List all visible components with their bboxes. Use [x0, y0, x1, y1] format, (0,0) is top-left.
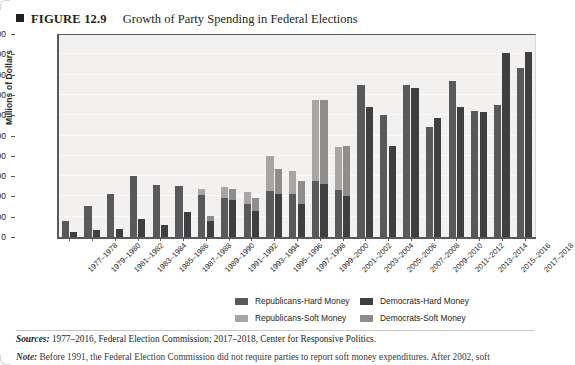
bar-segment-democrats-hard-money — [320, 184, 327, 237]
bar-segment-republicans-hard-money — [153, 185, 160, 237]
bar-segment-democrats-hard-money — [161, 225, 168, 237]
bar-segment-democrats-hard-money — [184, 212, 191, 237]
bar-segment-democrats-hard-money — [93, 230, 100, 237]
bar-segment-democrats-hard-money — [480, 112, 487, 237]
y-axis-tick-label: 1000 — [0, 29, 6, 39]
bar-democrats — [229, 189, 236, 237]
bar-republicans — [84, 206, 91, 237]
note-line: Note: Before 1991, the Federal Election … — [16, 352, 490, 362]
bar-group — [289, 34, 305, 237]
bar-group — [312, 34, 328, 237]
x-axis-tick-mark — [411, 237, 412, 241]
bar-segment-republicans-hard-money — [357, 85, 364, 237]
x-axis-tick-mark — [92, 237, 93, 241]
bar-republicans — [244, 192, 251, 237]
bar-democrats — [434, 118, 441, 237]
bar-segment-democrats-soft-money — [207, 216, 214, 221]
chart-container: Millions of Dollars 10009008007006005004… — [0, 30, 550, 270]
bar-group — [403, 34, 419, 237]
x-axis-tick-mark — [183, 237, 184, 241]
x-axis-tick-mark — [138, 237, 139, 241]
bar-segment-democrats-hard-money — [525, 52, 532, 237]
bar-group — [84, 34, 100, 237]
bar-democrats — [502, 53, 509, 237]
x-axis-tick-mark — [160, 237, 161, 241]
bar-democrats — [275, 169, 282, 237]
bar-republicans — [175, 186, 182, 237]
y-axis-tick-mark — [11, 196, 15, 197]
legend-item-label: Democrats-Hard Money — [380, 296, 469, 306]
x-axis-tick-mark — [115, 237, 116, 241]
bar-segment-democrats-hard-money — [457, 107, 464, 237]
bar-segment-democrats-hard-money — [343, 196, 350, 237]
bar-group — [380, 34, 396, 237]
square-bullet-icon — [16, 14, 24, 22]
y-axis-tick-mark — [11, 115, 15, 116]
bar-segment-democrats-hard-money — [275, 194, 282, 237]
y-axis-tick-label: 700 — [0, 90, 6, 100]
bar-group — [517, 34, 533, 237]
bar-segment-republicans-soft-money — [312, 100, 319, 181]
y-axis-tick-mark — [11, 237, 15, 238]
bar-segment-republicans-hard-money — [494, 105, 501, 237]
bar-republicans — [62, 221, 69, 237]
bar-group — [198, 34, 214, 237]
bar-republicans — [289, 171, 296, 237]
x-axis-tick-mark — [274, 237, 275, 241]
bar-republicans — [335, 147, 342, 237]
bar-segment-republicans-soft-money — [244, 192, 251, 203]
y-axis-tick-mark — [11, 95, 15, 96]
bar-republicans — [198, 189, 205, 237]
bar-group — [153, 34, 169, 237]
bar-segment-republicans-hard-money — [380, 115, 387, 237]
bar-segment-democrats-soft-money — [229, 189, 236, 200]
bar-democrats — [411, 88, 418, 237]
bar-segment-democrats-soft-money — [298, 181, 305, 203]
bar-segment-republicans-soft-money — [198, 189, 205, 195]
x-axis-tick-mark — [525, 237, 526, 241]
bar-republicans — [107, 194, 114, 237]
bar-segment-republicans-soft-money — [221, 187, 228, 198]
y-axis-tick-mark — [11, 156, 15, 157]
x-axis-tick-mark — [69, 237, 70, 241]
note-label: Note: — [16, 352, 37, 362]
bar-segment-republicans-hard-money — [335, 190, 342, 237]
bar-republicans — [153, 185, 160, 237]
page-title: Growth of Party Spending in Federal Elec… — [123, 12, 358, 27]
bar-segment-democrats-hard-money — [502, 53, 509, 237]
bar-segment-republicans-hard-money — [517, 68, 524, 238]
footer-divider — [16, 330, 534, 331]
y-axis-tick-label: 100 — [0, 212, 6, 222]
page-corner-bottom-left — [0, 355, 10, 365]
bar-segment-republicans-hard-money — [221, 198, 228, 237]
legend-item-label: Republicans-Soft Money — [255, 313, 346, 323]
bar-segment-republicans-hard-money — [175, 186, 182, 237]
bar-group — [107, 34, 123, 237]
bar-group — [335, 34, 351, 237]
bar-segment-republicans-soft-money — [335, 147, 342, 191]
legend-swatch-republicans-hard — [235, 298, 248, 305]
bar-group — [266, 34, 282, 237]
legend-swatch-democrats-soft — [360, 315, 373, 322]
bar-segment-democrats-soft-money — [275, 169, 282, 194]
y-axis-tick-label: 200 — [0, 191, 6, 201]
y-axis-tick-label: 0 — [1, 232, 6, 242]
legend-item-label: Democrats-Soft Money — [380, 313, 466, 323]
x-axis-tick-mark — [229, 237, 230, 241]
bar-segment-democrats-hard-money — [207, 221, 214, 237]
chart-legend: Republicans-Hard MoneyDemocrats-Hard Mon… — [0, 296, 550, 323]
x-axis-tick-mark — [434, 237, 435, 241]
bar-republicans — [494, 105, 501, 237]
bar-segment-republicans-hard-money — [107, 194, 114, 237]
bar-segment-republicans-soft-money — [289, 171, 296, 194]
page-corner-top-left — [0, 0, 10, 10]
legend-item-label: Republicans-Hard Money — [255, 296, 350, 306]
y-axis-tick-label: 800 — [0, 70, 6, 80]
bar-segment-republicans-hard-money — [312, 181, 319, 237]
bar-group — [449, 34, 465, 237]
bar-segment-republicans-hard-money — [289, 194, 296, 237]
bar-segment-republicans-soft-money — [266, 156, 273, 192]
bar-segment-democrats-hard-money — [389, 146, 396, 237]
bar-democrats — [70, 232, 77, 237]
bar-segment-democrats-soft-money — [320, 100, 327, 184]
